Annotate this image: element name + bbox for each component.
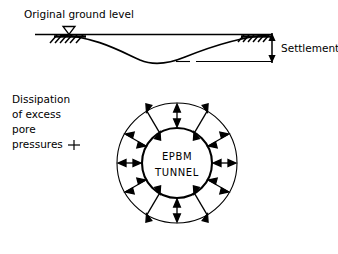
dissipation-leader-line (68, 140, 80, 150)
tunnel-lining-circle (142, 128, 212, 198)
dissipation-label-line1: Dissipation (12, 93, 70, 105)
radial-arrow (146, 186, 161, 222)
water-table-triangle-icon (63, 27, 75, 35)
epbm-tunnel-diagram: Original ground level Settlement (0, 0, 338, 254)
radial-arrow (125, 178, 146, 194)
dissipation-label-line4: pressures (12, 138, 63, 150)
tunnel-label-line2: TUNNEL (154, 167, 199, 178)
ground-level-label: Original ground level (24, 8, 134, 20)
radial-arrow (208, 178, 229, 194)
radial-pore-pressure-arrows (118, 104, 236, 222)
settlement-trough-curve (60, 35, 268, 63)
radial-arrow (208, 132, 229, 148)
radial-arrow (118, 160, 141, 167)
radial-arrow (125, 132, 146, 148)
dissipation-label-line2: of excess (12, 108, 61, 120)
radial-arrow (193, 186, 208, 222)
tunnel-label-line1: EPBM (162, 151, 192, 162)
radial-arrow (174, 104, 181, 127)
dissipation-label-line3: pore (12, 123, 36, 135)
radial-arrow (193, 104, 208, 140)
radial-arrow (174, 199, 181, 222)
settlement-label: Settlement (281, 42, 338, 54)
radial-arrow (146, 104, 161, 140)
radial-arrow (213, 160, 236, 167)
